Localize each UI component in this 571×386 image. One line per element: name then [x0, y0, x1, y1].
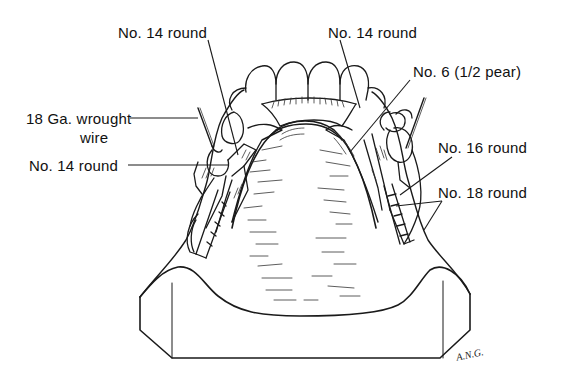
leader-18a	[396, 201, 442, 206]
left-clasp-region	[190, 112, 256, 232]
label-18ga-wire-line2: wire	[80, 129, 108, 146]
anterior-teeth	[230, 62, 385, 126]
wrought-wire-left	[198, 108, 222, 152]
label-no16-round: No. 16 round	[438, 139, 527, 156]
label-no18-round: No. 18 round	[438, 184, 527, 201]
label-no6-half-pear: No. 6 (1/2 pear)	[413, 63, 521, 80]
right-ladder-framework	[384, 184, 410, 244]
label-top-center-14-round: No. 14 round	[328, 24, 417, 41]
cast-base	[140, 267, 470, 358]
label-mid-left-14-round: No. 14 round	[29, 157, 118, 174]
leader-18b	[424, 201, 442, 230]
leader-lines	[128, 40, 452, 230]
label-top-left-14-round: No. 14 round	[118, 24, 207, 41]
dental-cast-illustration: No. 14 round No. 14 round No. 6 (1/2 pea…	[0, 0, 571, 386]
tongue-area	[232, 121, 376, 228]
leader-top-center	[340, 40, 360, 108]
gingival-hatching	[272, 97, 344, 108]
wrought-wire-right	[406, 98, 426, 148]
tongue-hatching	[244, 128, 360, 300]
label-18ga-wire-line1: 18 Ga. wrought	[26, 110, 131, 127]
